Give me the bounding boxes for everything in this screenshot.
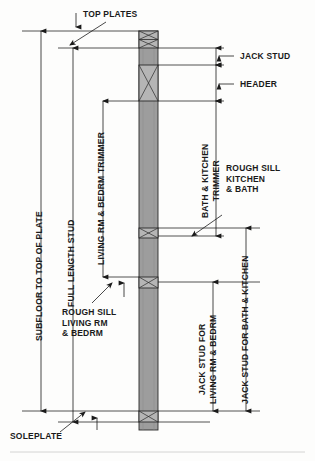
label-soleplate: SOLEPLATE — [10, 431, 62, 442]
label-jack-stud-bath-kitchen: JACK STUD FOR BATH & KITCHEN — [240, 255, 251, 404]
diagram-canvas — [0, 0, 315, 461]
label-rough-sill-living-bedrm: ROUGH SILL LIVING RM & BEDRM — [62, 307, 116, 339]
label-bath-kitchen-trimmer: BATH & KITCHEN TRIMMER — [200, 144, 221, 218]
leader-rough-sill-living-bedrm — [92, 283, 124, 303]
label-jack-stud: JACK STUD — [240, 51, 290, 62]
header-block — [139, 65, 158, 101]
label-full-length-stud: FULL LENGTH STUD — [66, 219, 77, 307]
label-top-plates: TOP PLATES — [83, 9, 137, 20]
label-jack-stud-living-bedrm: JACK STUD FOR LIVING RM & BEDRM — [197, 315, 218, 404]
label-rough-sill-kitchen-bath: ROUGH SILL KITCHEN & BATH — [226, 163, 280, 195]
leader-rough-sill-kitchen-bath — [192, 215, 222, 236]
label-pointer-lines — [219, 56, 234, 84]
top-plates-block — [139, 31, 158, 48]
rough-sill-kitchen-bath-block — [139, 228, 158, 238]
label-living-bedrm-trimmer: LIVING RM & BEDRM TRIMMER — [96, 132, 107, 265]
label-subfloor-to-top-of-plate: SUBFLOOR TO TOP OF PLATE — [34, 211, 45, 341]
rough-sill-living-bedrm-block — [139, 277, 158, 288]
soleplate-block — [139, 411, 158, 422]
framing-diagram: TOP PLATES JACK STUD HEADER ROUGH SILL K… — [0, 0, 315, 461]
label-header: HEADER — [240, 79, 277, 90]
